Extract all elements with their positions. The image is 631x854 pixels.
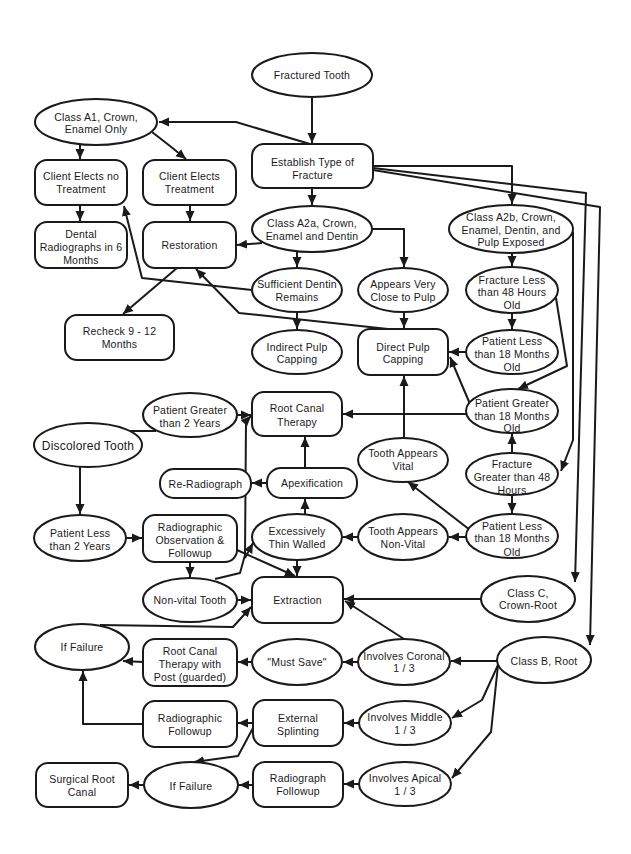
node-must-save: "Must Save" [252, 639, 342, 685]
node-patient-less-18m-upper: Patient Lessthan 18 MonthsOld [466, 330, 558, 374]
edge-radiographic-followup-to-if-failure [83, 671, 143, 724]
node-tooth-appears-non-vital: Tooth AppearsNon-Vital [358, 514, 448, 560]
svg-text:Re-Radiograph: Re-Radiograph [169, 478, 243, 490]
edge-restoration-to-recheck [123, 268, 177, 314]
node-patient-greater-18m: Patient Greaterthan 18 MonthsOld [466, 389, 558, 434]
node-dental-radiographs: DentalRadiographs in 6Months [35, 222, 127, 268]
treatment-flowchart: Fractured Tooth Class A1, Crown,Enamel O… [0, 0, 631, 854]
node-involves-coronal: Involves Coronal1 / 3 [358, 639, 450, 685]
node-sufficient-dentin: Sufficient DentinRemains [252, 268, 342, 312]
svg-text:Class A2a, Crown,Enamel and De: Class A2a, Crown,Enamel and Dentin [266, 217, 359, 242]
svg-text:Class A1, Crown,Enamel Only: Class A1, Crown,Enamel Only [54, 111, 138, 135]
edge-rct-post-to-if-failure [123, 661, 143, 662]
svg-text:ExcessivelyThin Walled: ExcessivelyThin Walled [268, 525, 326, 550]
node-indirect-pulp-capping: Indirect PulpCapping [252, 330, 342, 374]
svg-text:Non-vital Tooth: Non-vital Tooth [154, 594, 227, 606]
node-patient-less-18m-lower: Patient Lessthan 18 MonthsOld [466, 514, 558, 558]
node-direct-pulp-capping: Direct PulpCapping [358, 329, 448, 375]
node-appears-close-to-pulp: Appears VeryClose to Pulp [358, 268, 448, 312]
node-restoration: Restoration [143, 222, 236, 268]
node-client-elects-treatment: Client ElectsTreatment [143, 160, 236, 205]
node-patient-less-2y: Patient Lessthan 2 Years [34, 515, 126, 561]
edge-a1-to-treatment [152, 132, 186, 159]
node-radiographic-observation: RadiographicObservation &Followup [143, 515, 237, 562]
node-apexification: Apexification [267, 468, 357, 498]
node-radiograph-followup: RadiographFollowup [253, 762, 343, 807]
svg-text:Client ElectsTreatment: Client ElectsTreatment [159, 170, 220, 195]
node-patient-greater-2y: Patient Greaterthan 2 Years [143, 393, 237, 437]
svg-text:If Failure: If Failure [170, 780, 213, 792]
svg-text:Root CanalTherapy withPost (gu: Root CanalTherapy withPost (guarded) [154, 645, 226, 683]
svg-text:If Failure: If Failure [61, 641, 104, 653]
node-client-elects-no-treatment: Client Elects noTreatment [35, 160, 127, 205]
node-class-b: Class B, Root [497, 637, 591, 683]
node-if-failure-upper: If Failure [35, 624, 129, 670]
svg-text:Extraction: Extraction [273, 594, 322, 606]
svg-text:Patient Lessthan 2 Years: Patient Lessthan 2 Years [50, 527, 111, 552]
node-excessively-thin-walled: ExcessivelyThin Walled [252, 514, 342, 560]
node-class-a2a: Class A2a, Crown,Enamel and Dentin [252, 206, 372, 252]
edge-patient-greater-to-direct [450, 357, 470, 404]
svg-text:ExternalSplinting: ExternalSplinting [277, 712, 319, 737]
node-class-a1: Class A1, Crown,Enamel Only [35, 99, 157, 145]
svg-text:Discolored Tooth: Discolored Tooth [42, 439, 134, 453]
node-tooth-appears-vital: Tooth AppearsVital [358, 438, 448, 482]
node-rct-with-post: Root CanalTherapy withPost (guarded) [143, 639, 237, 686]
node-extraction: Extraction [252, 577, 343, 623]
edge-establish-to-class-a1 [159, 122, 310, 144]
node-re-radiograph: Re-Radiograph [160, 469, 251, 498]
svg-text:Restoration: Restoration [162, 239, 218, 251]
edge-a2a-to-appears-close [372, 229, 404, 267]
edge-class-b-to-middle [452, 665, 498, 718]
svg-text:Direct PulpCapping: Direct PulpCapping [376, 341, 430, 365]
node-fracture-greater-48h: FractureGreater than 48Hours [466, 453, 558, 496]
node-discolored-tooth: Discolored Tooth [34, 423, 142, 467]
node-class-a2b: Class A2b, Crown,Enamel, Dentin, andPulp… [449, 205, 573, 253]
node-if-failure-lower: If Failure [144, 762, 238, 808]
svg-text:Fractured Tooth: Fractured Tooth [274, 69, 350, 81]
svg-text:Apexification: Apexification [281, 477, 343, 489]
node-external-splinting: ExternalSplinting [253, 700, 343, 746]
node-root-canal-therapy: Root CanalTherapy [252, 392, 342, 436]
node-fracture-less-48h: Fracture Lessthan 48 HoursOld [466, 267, 558, 313]
svg-text:Class B, Root: Class B, Root [511, 655, 578, 667]
node-surgical-root-canal: Surgical RootCanal [36, 763, 128, 807]
node-radiographic-followup: RadiographicFollowup [143, 701, 237, 747]
svg-text:Patient Greaterthan 2 Years: Patient Greaterthan 2 Years [153, 404, 228, 429]
edge-establish-to-a2b [373, 166, 512, 204]
svg-text:Appears VeryClose to Pulp: Appears VeryClose to Pulp [370, 278, 436, 303]
edge-a2a-to-restoration [237, 243, 262, 245]
svg-text:Class C,Crown-Root: Class C,Crown-Root [499, 587, 557, 611]
node-involves-apical: Involves Apical1 / 3 [359, 762, 451, 806]
node-establish-type-of-fracture: Establish Type ofFracture [252, 144, 373, 188]
svg-text:"Must Save": "Must Save" [267, 656, 326, 668]
edge-coronal-to-extraction [345, 601, 404, 639]
node-involves-middle: Involves Middle1 / 3 [359, 701, 451, 745]
node-fractured-tooth: Fractured Tooth [252, 53, 372, 97]
svg-text:RadiographFollowup: RadiographFollowup [270, 772, 326, 797]
node-non-vital-tooth: Non-vital Tooth [143, 578, 237, 622]
node-recheck: Recheck 9 - 12Months [65, 315, 174, 360]
node-class-c: Class C,Crown-Root [481, 576, 575, 622]
edge-a2b-to-fracture-greater [561, 232, 573, 471]
